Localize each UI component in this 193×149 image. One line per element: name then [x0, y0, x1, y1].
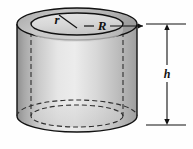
height-label: h: [164, 67, 171, 81]
height-arrowhead-top: [164, 24, 169, 30]
cylinder-drawing-canvas: r R h: [0, 0, 193, 149]
outer-radius-arrowhead: [138, 24, 143, 29]
height-arrowhead-bottom: [164, 119, 169, 125]
hollow-cylinder-figure: r R h: [0, 0, 193, 149]
height-dimension: h: [146, 24, 186, 125]
bore-bottom-group: [31, 105, 123, 127]
outer-radius-label: R: [97, 18, 107, 33]
